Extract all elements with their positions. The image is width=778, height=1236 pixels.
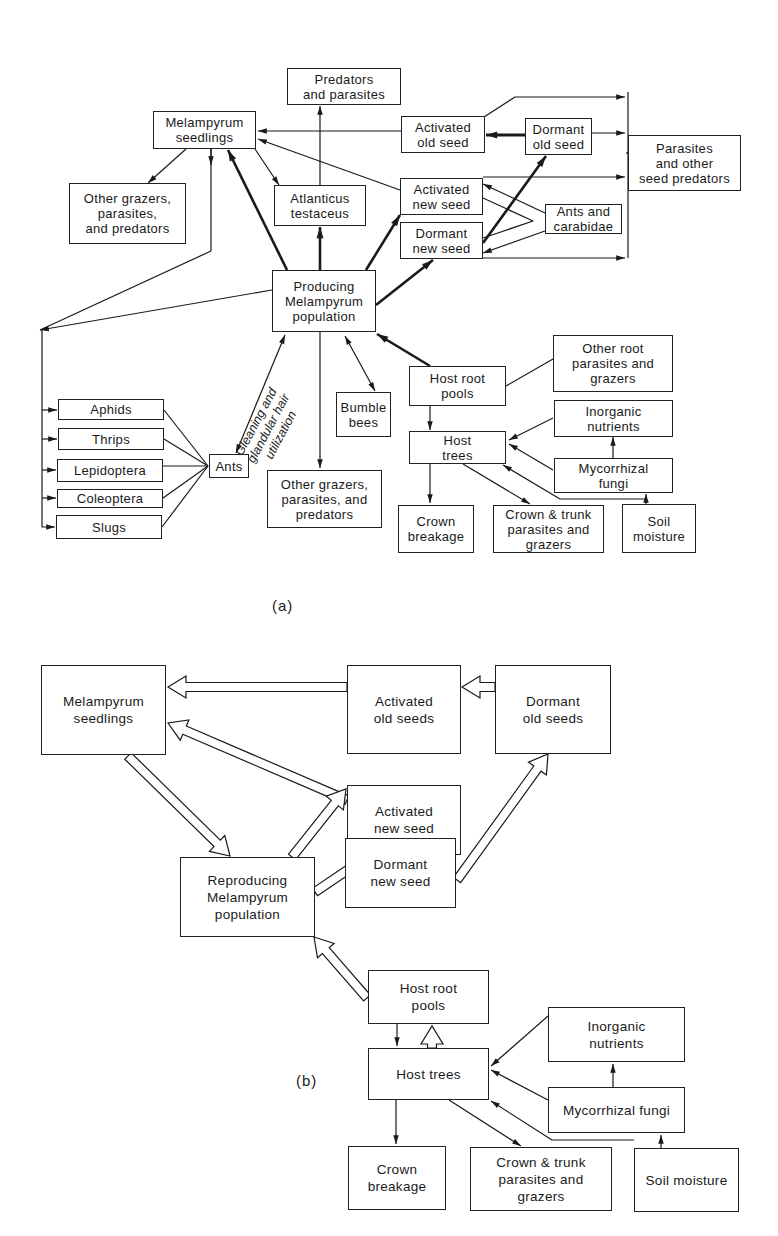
arrowhead-icon [616, 130, 625, 136]
connector-line [164, 410, 208, 466]
arrowhead-icon [272, 176, 279, 185]
node-act-old-b: Activated old seeds [347, 665, 461, 754]
node-dor-new-a: Dormant new seed [400, 222, 483, 259]
arrowhead-icon [509, 434, 518, 440]
node-dor-new-b: Dormant new seed [345, 838, 456, 908]
arrowhead-icon [377, 334, 388, 343]
node-act-new-a: Activated new seed [400, 178, 483, 215]
node-other-root: Other root parasites and grazers [553, 335, 673, 392]
node-slugs: Slugs [56, 515, 162, 539]
arrowhead-icon [317, 106, 323, 115]
arrowhead-icon [40, 326, 49, 331]
arrowhead-icon [317, 459, 323, 468]
node-host-trees-a: Host trees [409, 431, 506, 464]
node-mel-seed-a: Melampyrum seedlings [153, 111, 256, 149]
node-crown-brk-a: Crown breakage [398, 505, 474, 553]
node-mel-seed-b: Melampyrum seedlings [41, 665, 166, 755]
arrowhead-icon [521, 497, 530, 504]
arrowhead-icon [483, 184, 492, 190]
hollow-arrow-icon [421, 1026, 443, 1048]
arrowhead-icon [610, 1064, 616, 1073]
connector-line [40, 290, 272, 330]
hollow-arrow-icon [168, 720, 349, 804]
arrowhead-icon [258, 128, 267, 134]
connector-line [449, 1100, 521, 1146]
connector-line [484, 97, 625, 117]
node-thrips: Thrips [58, 428, 164, 450]
connector-line [163, 466, 208, 498]
arrowhead-icon [47, 467, 56, 473]
arrowhead-icon [391, 215, 400, 226]
node-lepid: Lepidoptera [57, 459, 163, 482]
node-coleop: Coleoptera [57, 489, 163, 508]
arrowhead-icon [345, 336, 352, 345]
arrowhead-icon [46, 524, 55, 530]
arrowhead-icon [317, 227, 324, 238]
node-atlanticus: Atlanticus testaceus [274, 185, 366, 226]
arrowhead-icon [509, 444, 518, 451]
node-other-graz-a1: Other grazers, parasites, and predators [69, 183, 186, 244]
node-host-root-a: Host root pools [409, 366, 506, 406]
node-mycor-a: Mycorrhizal fungi [554, 458, 673, 493]
hollow-arrow-icon [314, 937, 370, 1001]
panel-label-a: (a) [272, 597, 293, 614]
node-host-root-b: Host root pools [368, 970, 489, 1024]
hollow-arrow-icon [125, 753, 230, 856]
arrowhead-icon [491, 1101, 500, 1108]
arrowhead-icon [483, 247, 492, 253]
arrowhead-icon [393, 1135, 399, 1144]
connector-line [164, 439, 208, 466]
arrowhead-icon [228, 150, 236, 162]
arrowhead-icon [258, 139, 267, 145]
node-mycor-b: Mycorrhizal fungi [548, 1087, 685, 1133]
connector-line [258, 139, 400, 190]
node-crown-trunk-b: Crown & trunk parasites and grazers [470, 1147, 612, 1211]
node-bumble: Bumble bees [336, 392, 391, 437]
connector-line [345, 336, 375, 391]
arrowhead-icon [503, 465, 512, 472]
arrowhead-icon [658, 1135, 664, 1144]
node-reproducing: Reproducing Melampyrum population [180, 857, 315, 937]
connector-line [463, 464, 530, 504]
node-inorg-a: Inorganic nutrients [554, 400, 673, 437]
node-inorg-b: Inorganic nutrients [548, 1007, 685, 1062]
arrowhead-icon [48, 436, 57, 442]
hollow-arrow-icon [289, 789, 347, 860]
arrowhead-icon [47, 495, 56, 501]
node-par-other: Parasites and other seed predators [628, 135, 741, 191]
hollow-arrow-icon [168, 676, 347, 698]
connector-line [483, 156, 546, 243]
node-crown-trunk-a: Crown & trunk parasites and grazers [493, 505, 604, 553]
panel-label-b: (b) [296, 1072, 317, 1089]
node-pred-par: Predators and parasites [287, 68, 401, 105]
arrowhead-icon [616, 94, 625, 100]
hollow-arrow-icon [462, 676, 495, 698]
node-crown-brk-b: Crown breakage [348, 1146, 446, 1210]
node-host-trees-b: Host trees [368, 1048, 489, 1100]
node-producing: Producing Melampyrum population [272, 270, 376, 332]
arrowhead-icon [427, 421, 433, 430]
node-dor-old-b: Dormant old seeds [495, 665, 611, 754]
node-soil-a: Soil moisture [622, 504, 696, 553]
connector-line [491, 1070, 548, 1100]
arrowhead-icon [491, 1070, 500, 1077]
node-other-graz-a2: Other grazers, parasites, and predators [267, 470, 382, 528]
connector-line [162, 466, 208, 527]
arrowhead-icon [610, 437, 616, 446]
node-act-old-a: Activated old seed [401, 116, 485, 153]
arrowhead-icon [368, 382, 375, 391]
connector-line [483, 184, 545, 213]
arrowhead-icon [616, 174, 625, 180]
arrowhead-icon [394, 1037, 400, 1046]
connector-line [506, 359, 553, 386]
arrowhead-icon [616, 255, 625, 261]
connector-line [491, 1016, 548, 1066]
hollow-arrow-icon [453, 754, 548, 883]
node-soil-b: Soil moisture [634, 1148, 739, 1212]
arrowhead-icon [279, 335, 285, 344]
arrowhead-icon [512, 1139, 521, 1146]
arrowhead-icon [48, 407, 57, 413]
arrowhead-icon [427, 494, 433, 503]
node-ants-carab: Ants and carabidae [545, 204, 622, 234]
arrowhead-icon [208, 156, 214, 165]
